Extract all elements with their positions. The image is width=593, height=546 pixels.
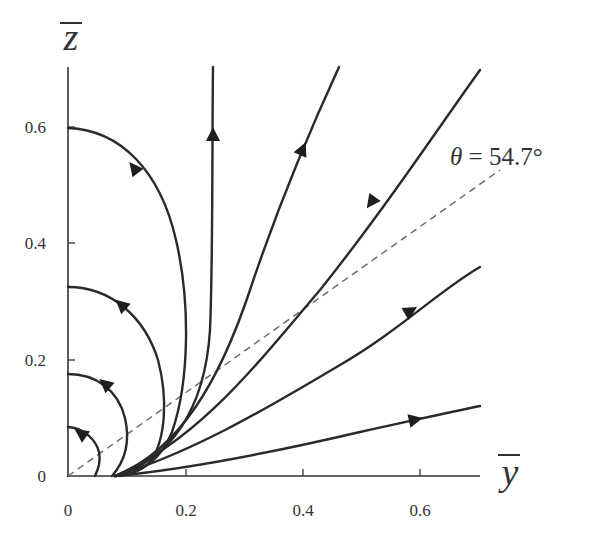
streamline-chart: 0 0.2 0.4 0.6 0 0.2 0.4 0.6 z y θ = 54.7…: [0, 0, 593, 546]
loop-3: [68, 287, 164, 476]
arrow-icon: [361, 193, 381, 213]
ray-3: [115, 70, 480, 476]
arrow-icon: [206, 127, 220, 141]
x-tick-label: 0: [64, 501, 73, 520]
loop-curves: [68, 128, 186, 476]
ray-curves: [115, 67, 480, 476]
theta-reference-line: [68, 170, 500, 476]
y-tick-label: 0.6: [25, 118, 46, 137]
arrow-icon: [71, 423, 90, 442]
x-axis-label-group: y: [498, 451, 520, 493]
theta-annotation: θ = 54.7°: [450, 143, 543, 170]
y-axis-label: z: [63, 16, 79, 58]
y-tick-label: 0: [38, 467, 47, 486]
arrowheads: [71, 127, 425, 443]
theta-value: = 54.7°: [462, 143, 542, 170]
x-tick-label: 0.4: [292, 501, 314, 520]
arrow-icon: [294, 139, 312, 157]
axes: [67, 67, 480, 477]
ray-2: [115, 67, 339, 476]
x-tick-label: 0.2: [175, 501, 196, 520]
loop-2: [68, 374, 127, 476]
y-tick-label: 0.4: [25, 234, 47, 253]
theta-symbol: θ: [450, 143, 462, 170]
y-axis-label-group: z: [60, 16, 82, 58]
x-tick-label: 0.6: [409, 501, 430, 520]
y-tick-label: 0.2: [25, 351, 46, 370]
x-axis-label: y: [498, 451, 519, 493]
arrow-icon: [124, 158, 144, 178]
